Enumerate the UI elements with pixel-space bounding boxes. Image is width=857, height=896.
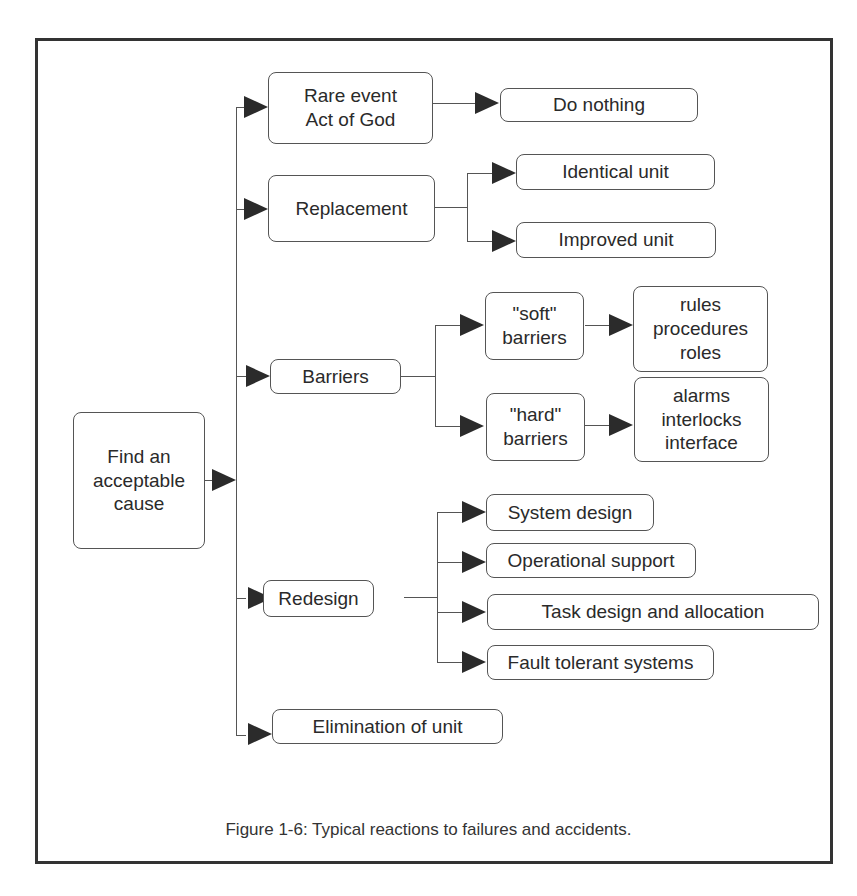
arrow-barriers-icon — [246, 365, 270, 387]
arrow-soft-icon — [460, 314, 484, 336]
connector-hard-items — [585, 425, 611, 426]
node-redesign: Redesign — [263, 580, 374, 617]
node-system-design: System design — [486, 494, 654, 531]
node-identical-unit: Identical unit — [516, 154, 715, 190]
node-hard-items: alarms interlocks interface — [634, 377, 769, 462]
arrow-hard-items-icon — [609, 414, 633, 436]
connector-trunk-barriers — [236, 376, 246, 377]
connector-barriers-soft — [435, 325, 461, 326]
arrow-operational-icon — [462, 551, 486, 573]
node-task-design: Task design and allocation — [487, 594, 819, 630]
connector-redesign-system — [437, 512, 463, 513]
arrow-improved-icon — [492, 230, 516, 252]
arrow-system-icon — [462, 501, 486, 523]
arrow-identical-icon — [492, 162, 516, 184]
connector-barriers-branch — [435, 325, 436, 426]
node-root: Find an acceptable cause — [73, 412, 205, 549]
node-fault-tolerant: Fault tolerant systems — [487, 645, 714, 680]
arrow-task-icon — [462, 601, 486, 623]
node-hard-barriers: "hard" barriers — [486, 393, 585, 461]
connector-redesign-out — [404, 597, 437, 598]
node-replacement: Replacement — [268, 175, 435, 242]
node-soft-items: rules procedures roles — [633, 286, 768, 372]
arrow-fault-icon — [462, 651, 486, 673]
node-barriers: Barriers — [270, 359, 401, 394]
connector-trunk-elimination — [236, 735, 246, 736]
connector-redesign-branch — [437, 512, 438, 662]
arrow-rare-icon — [244, 96, 268, 118]
node-rare-event: Rare event Act of God — [268, 72, 433, 144]
connector-redesign-fault — [437, 662, 463, 663]
connector-soft-items — [585, 325, 611, 326]
figure-caption: Figure 1-6: Typical reactions to failure… — [0, 820, 857, 840]
connector-replacement-out — [435, 207, 467, 208]
arrow-root-icon — [212, 469, 236, 491]
arrow-donothing-icon — [475, 92, 499, 114]
connector-rare-donothing — [433, 103, 477, 104]
node-soft-barriers: "soft" barriers — [485, 292, 584, 360]
arrow-hard-icon — [460, 415, 484, 437]
trunk-line — [236, 107, 237, 735]
connector-redesign-operational — [437, 562, 463, 563]
node-do-nothing: Do nothing — [500, 88, 698, 122]
connector-barriers-hard — [435, 426, 461, 427]
node-improved-unit: Improved unit — [516, 222, 716, 258]
connector-barriers-out — [401, 376, 435, 377]
arrow-soft-items-icon — [609, 314, 633, 336]
arrow-replacement-icon — [244, 198, 268, 220]
connector-redesign-task — [437, 612, 463, 613]
connector-replacement-identical — [467, 173, 493, 174]
node-operational-support: Operational support — [486, 543, 696, 578]
arrow-elimination-icon — [248, 723, 272, 745]
connector-trunk-redesign — [236, 598, 246, 599]
connector-replacement-branch — [467, 173, 468, 241]
connector-replacement-improved — [467, 241, 493, 242]
node-elimination: Elimination of unit — [272, 709, 503, 744]
